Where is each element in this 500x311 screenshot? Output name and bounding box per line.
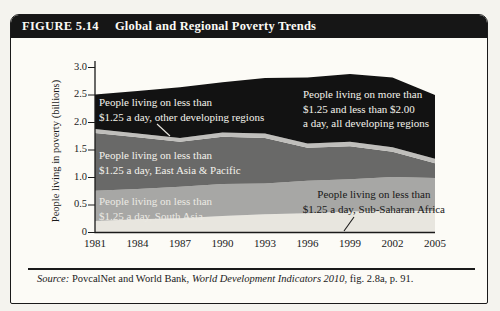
x-tick-label-1993: 1993 bbox=[243, 237, 287, 249]
annotation-sub-saharan-africa: People living on less than $1.25 a day, … bbox=[303, 187, 445, 216]
y-tick-label-1.5: 1.5 bbox=[45, 143, 87, 154]
y-tick-label-2.0: 2.0 bbox=[45, 116, 87, 127]
y-tick-label-1.0: 1.0 bbox=[45, 171, 87, 182]
y-tick-label-0: 0 bbox=[45, 226, 87, 237]
figure-number: FIGURE 5.14 bbox=[22, 19, 99, 34]
source-prefix: Source: bbox=[37, 273, 69, 284]
x-tick-label-1999: 1999 bbox=[328, 237, 372, 249]
x-tick-label-1984: 1984 bbox=[116, 237, 160, 249]
page: People living in poverty (billions) Peop… bbox=[0, 0, 500, 311]
y-tick-label-2.5: 2.5 bbox=[45, 88, 87, 99]
poverty-trends-chart: People living in poverty (billions) Peop… bbox=[11, 15, 486, 302]
y-tick-label-0.5: 0.5 bbox=[45, 198, 87, 209]
x-tick-label-2002: 2002 bbox=[371, 237, 415, 249]
annotation-south-asia: People living on less than $1.25 a day, … bbox=[99, 194, 212, 223]
annotation-other-developing-regions: People living on less than $1.25 a day, … bbox=[99, 95, 264, 124]
source-text-1: PovcalNet and World Bank, bbox=[69, 273, 192, 284]
figure-header: FIGURE 5.14 Global and Regional Poverty … bbox=[11, 15, 487, 38]
figure-box: People living in poverty (billions) Peop… bbox=[10, 14, 488, 304]
x-tick-label-1996: 1996 bbox=[286, 237, 330, 249]
x-tick-label-1987: 1987 bbox=[158, 237, 202, 249]
annotation-east-asia-pacific: People living on less than $1.25 a day, … bbox=[99, 148, 241, 177]
x-tick-label-1990: 1990 bbox=[201, 237, 245, 249]
source-work-title: World Development Indicators 2010 bbox=[192, 273, 345, 284]
x-tick-label-2005: 2005 bbox=[413, 237, 457, 249]
chart-canvas bbox=[11, 15, 486, 302]
source-divider-rule bbox=[28, 268, 475, 270]
x-tick-label-1981: 1981 bbox=[73, 237, 117, 249]
source-line: Source: PovcalNet and World Bank, World … bbox=[37, 273, 479, 284]
figure-title: Global and Regional Poverty Trends bbox=[115, 19, 316, 34]
annotation-between-1.25-and-2.00: People living on more than $1.25 and les… bbox=[303, 87, 429, 131]
y-tick-label-3.0: 3.0 bbox=[45, 61, 87, 72]
source-text-2: , fig. 2.8a, p. 91. bbox=[345, 273, 414, 284]
